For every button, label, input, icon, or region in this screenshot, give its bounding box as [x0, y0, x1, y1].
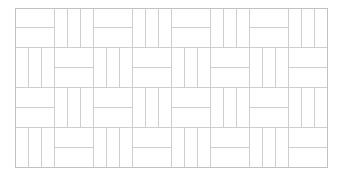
pattern-canvas: [0, 0, 341, 178]
tile-blocks-group: [15, 8, 327, 167]
basketweave-pattern: [0, 0, 341, 178]
